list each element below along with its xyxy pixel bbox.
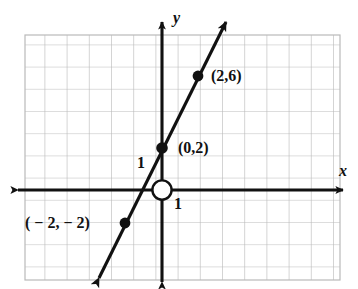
point-label-0-2: (0,2): [178, 140, 209, 156]
point-label-2-6: (2,6): [211, 68, 242, 84]
point-label-neg2-neg2: ( − 2, − 2): [25, 215, 90, 231]
point-marker-2-6: [193, 71, 204, 82]
x-unit-tick-label: 1: [174, 196, 182, 212]
grid-lines: [25, 35, 340, 280]
coordinate-plane-figure: (2,6) (0,2) ( − 2, − 2) 1 1 x y: [0, 0, 358, 289]
y-unit-tick-label: 1: [137, 155, 145, 171]
origin-marker: [152, 180, 171, 199]
point-marker-neg2-neg2: [120, 218, 131, 229]
point-marker-0-2: [156, 142, 168, 154]
y-axis-label: y: [173, 10, 180, 26]
x-axis-label: x: [339, 163, 347, 179]
